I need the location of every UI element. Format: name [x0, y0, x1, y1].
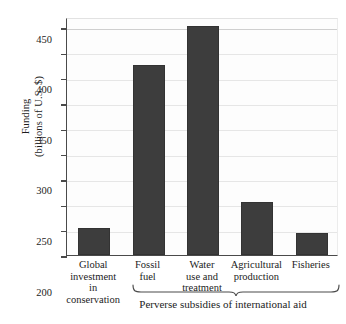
- x-axis-category-label: Agricultural production: [225, 259, 287, 282]
- y-axis-tick-label: 450: [36, 33, 52, 44]
- x-axis-category-label: Fossil fuel: [116, 259, 178, 282]
- y-axis-tick-label: 300: [36, 185, 52, 196]
- x-axis-category-label: Fisheries: [280, 259, 342, 271]
- group-bracket-caption: Perverse subsidies of international aid: [100, 298, 346, 310]
- y-axis-tick-label: 350: [36, 134, 52, 145]
- y-axis-tick: 0: [61, 256, 67, 257]
- bar: [241, 202, 273, 255]
- bar: [133, 65, 165, 255]
- group-bracket-icon: [132, 284, 340, 296]
- bar: [187, 26, 219, 255]
- bar-chart-figure: Funding (billions of U.S. $) 05010015020…: [0, 0, 346, 324]
- y-axis-tick-label: 400: [36, 84, 52, 95]
- plot-area: 050100150200250300350400450: [66, 18, 338, 256]
- y-axis-tick-label: 250: [36, 236, 52, 247]
- y-axis-title: Funding (billions of U.S. $): [20, 37, 45, 197]
- bar-series: [67, 19, 337, 255]
- bar: [296, 233, 328, 255]
- y-axis-tick-label: 200: [36, 286, 52, 297]
- bar: [78, 228, 110, 255]
